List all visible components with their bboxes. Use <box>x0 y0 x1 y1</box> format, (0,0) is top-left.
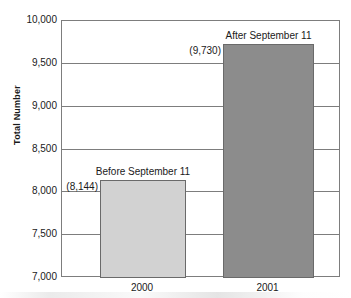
plot-area: Before September 11(8,144)After Septembe… <box>61 20 340 277</box>
y-axis-tick-7500: 7,500 <box>13 229 57 239</box>
series-title-2000: Before September 11 <box>73 166 213 177</box>
bar-2000 <box>100 180 186 278</box>
bar-2001 <box>223 44 314 278</box>
chart-figure: Total Number 10,0009,5009,0008,5008,0007… <box>0 0 351 298</box>
y-axis-tick-9500: 9,500 <box>13 58 57 68</box>
value-label-2000: (8,144) <box>18 181 98 192</box>
y-axis-tick-9000: 9,000 <box>13 101 57 111</box>
scan-artifact <box>0 292 351 298</box>
series-title-2001: After September 11 <box>199 30 339 41</box>
y-axis-tick-8500: 8,500 <box>13 144 57 154</box>
y-axis-tick-7000: 7,000 <box>13 272 57 282</box>
y-axis-tick-10000: 10,000 <box>13 15 57 25</box>
value-label-2001: (9,730) <box>141 45 221 56</box>
y-axis-tick-labels: 10,0009,5009,0008,5008,0007,5007,000 <box>13 0 57 298</box>
